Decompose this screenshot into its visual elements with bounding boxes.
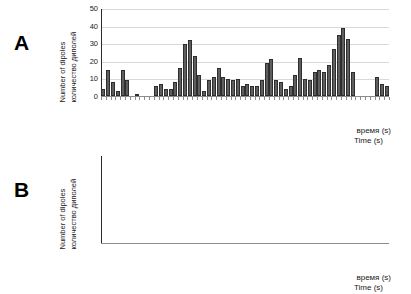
x-tick-mark	[255, 97, 256, 100]
histogram-bar	[380, 84, 384, 96]
y-tick-labels-a: 01020304050	[82, 6, 98, 100]
x-tick-mark	[269, 97, 270, 100]
histogram-bar	[183, 44, 187, 96]
histogram-bar	[169, 89, 173, 96]
x-tick-mark	[173, 97, 174, 100]
histogram-bar	[341, 28, 345, 96]
x-tick-mark	[288, 97, 289, 100]
histogram-bar	[101, 89, 105, 96]
histogram-bar	[121, 70, 125, 96]
y-tick-label: 10	[90, 76, 98, 84]
x-tick-mark	[144, 97, 145, 100]
histogram-bar	[327, 65, 331, 96]
x-tick-mark	[221, 97, 222, 100]
histogram-bar	[375, 77, 379, 96]
x-tick-mark	[250, 97, 251, 100]
x-tick-mark	[264, 97, 265, 100]
histogram-bar	[125, 80, 129, 96]
histogram-bar	[298, 58, 302, 96]
x-tick-mark	[351, 97, 352, 100]
x-tick-mark	[168, 97, 169, 100]
x-tick-mark	[149, 97, 150, 100]
x-tick-mark	[312, 97, 313, 100]
histogram-bar	[173, 82, 177, 96]
histogram-bar	[236, 79, 240, 96]
x-tick-mark	[120, 97, 121, 100]
y-axis-title-ru-a: количество диполей	[70, 31, 78, 102]
bars-a	[101, 9, 389, 96]
histogram-bar	[385, 86, 389, 96]
histogram-bar	[308, 80, 312, 96]
histogram-bar	[346, 39, 350, 96]
x-tick-mark	[240, 97, 241, 100]
histogram-bar	[116, 91, 120, 96]
x-tick-mark	[163, 97, 164, 100]
x-tick-mark	[139, 97, 140, 100]
x-tick-mark	[207, 97, 208, 100]
x-tick-mark	[106, 97, 107, 100]
x-tick-mark	[211, 97, 212, 100]
y-tick-label: 40	[90, 23, 98, 31]
histogram-bar	[164, 89, 168, 96]
x-tick-mark	[307, 97, 308, 100]
x-tick-mark	[346, 97, 347, 100]
histogram-bar	[250, 86, 254, 96]
x-tick-mark	[322, 97, 323, 100]
histogram-bar	[188, 40, 192, 96]
figure-histograms: A Number of dipoles количество диполей 0…	[0, 0, 411, 294]
histogram-bar	[178, 68, 182, 96]
bars-b	[101, 156, 389, 243]
x-tick-mark	[389, 97, 390, 100]
x-axis-title-ru-a: время (s)	[356, 126, 391, 136]
histogram-bar	[202, 91, 206, 96]
x-tick-mark	[379, 97, 380, 100]
x-axis-title-ru-b: время (s)	[356, 273, 391, 283]
x-tick-mark	[274, 97, 275, 100]
y-tick-label: 0	[94, 93, 98, 101]
x-tick-mark	[216, 97, 217, 100]
x-tick-mark	[360, 97, 361, 100]
x-tick-mark	[293, 97, 294, 100]
histogram-bar	[317, 70, 321, 96]
x-axis-title-en-b: Time (s)	[354, 283, 383, 293]
histogram-bar	[284, 89, 288, 96]
x-tick-mark	[331, 97, 332, 100]
histogram-bar	[279, 82, 283, 96]
y-tick-label: 30	[90, 40, 98, 48]
x-tick-mark	[178, 97, 179, 100]
y-tick-labels-b	[82, 153, 98, 247]
panel-b: B Number of dipoles количество диполей в…	[0, 147, 411, 294]
y-axis-title-en-a: Number of dipoles	[59, 41, 67, 102]
x-axis-title-en-a: Time (s)	[354, 136, 383, 146]
histogram-bar	[154, 86, 158, 96]
histogram-bar	[245, 84, 249, 96]
x-tick-mark	[303, 97, 304, 100]
x-tick-mark	[370, 97, 371, 100]
x-tick-mark	[231, 97, 232, 100]
histogram-bar	[135, 94, 139, 96]
x-tick-mark	[159, 97, 160, 100]
x-tick-mark	[283, 97, 284, 100]
x-tick-labels-a	[101, 101, 389, 129]
x-tick-mark	[298, 97, 299, 100]
histogram-bar	[221, 77, 225, 96]
histogram-bar	[207, 80, 211, 96]
histogram-bar	[193, 56, 197, 96]
x-tick-mark	[384, 97, 385, 100]
x-tick-mark	[183, 97, 184, 100]
x-tick-mark	[115, 97, 116, 100]
x-tick-mark	[245, 97, 246, 100]
histogram-bar	[231, 80, 235, 96]
histogram-bar	[111, 82, 115, 96]
plot-area-a	[101, 9, 389, 97]
histogram-bar	[212, 77, 216, 96]
y-axis-title-b: Number of dipoles количество диполей	[57, 153, 83, 249]
histogram-bar	[303, 79, 307, 96]
histogram-bar	[322, 72, 326, 96]
histogram-bar	[289, 86, 293, 96]
histogram-bar	[265, 63, 269, 96]
x-tick-mark	[111, 97, 112, 100]
y-tick-label: 20	[90, 58, 98, 66]
histogram-bar	[269, 59, 273, 96]
y-axis-title-a: Number of dipoles количество диполей	[57, 6, 83, 102]
